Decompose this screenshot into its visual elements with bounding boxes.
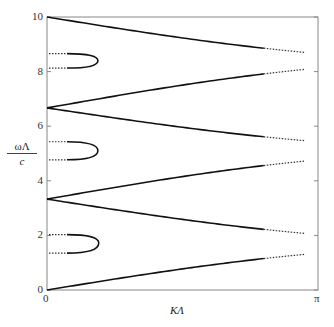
y-tick-label: 6 (38, 119, 44, 131)
x-tick-label: 0 (43, 292, 49, 304)
gap-loops (49, 54, 99, 254)
band-6-dotted-tail (264, 48, 305, 52)
band-1-curve (47, 259, 264, 290)
y-tick-label: 10 (32, 10, 43, 22)
band-diagram-plot (0, 0, 334, 327)
band-4-curve (47, 108, 264, 137)
band-curves (47, 17, 304, 290)
y-tick-label: 2 (38, 228, 44, 240)
x-tick-label: π (314, 292, 320, 304)
band-6-curve (47, 17, 264, 48)
y-tick-label: 8 (38, 65, 44, 77)
gap-1-loop (67, 235, 99, 254)
plot-frame (47, 17, 318, 290)
gap-3-loop (67, 54, 98, 68)
band-4-dotted-tail (264, 137, 305, 141)
band-1-dotted-tail (264, 254, 305, 258)
band-2-dotted-tail (264, 229, 305, 233)
gap-2-loop (67, 142, 98, 160)
band-3-curve (47, 166, 264, 200)
x-axis-label: KΛ (170, 304, 184, 316)
y-axis-label-numerator: ωΛ (7, 140, 37, 154)
axis-ticks (47, 17, 318, 290)
y-axis-label-denominator: c (7, 154, 37, 167)
band-3-dotted-tail (264, 161, 305, 165)
band-2-curve (47, 199, 264, 229)
band-5-dotted-tail (264, 69, 305, 74)
band-5-curve (47, 74, 264, 108)
y-axis-label: ωΛ c (7, 140, 37, 167)
y-tick-label: 4 (38, 174, 44, 186)
